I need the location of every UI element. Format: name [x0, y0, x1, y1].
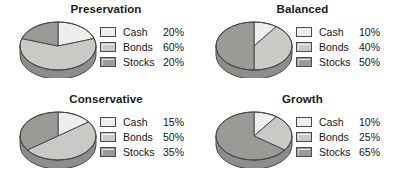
legend-swatch-bonds [296, 42, 312, 52]
legend-label: Bonds [123, 131, 163, 143]
legend-value: 10% [359, 116, 380, 128]
pie-svg [18, 110, 98, 168]
legend-label: Bonds [319, 131, 359, 143]
legend-swatch-stocks [100, 57, 116, 67]
legend-row: Bonds40% [296, 39, 388, 54]
legend-value: 20% [163, 56, 184, 68]
legend-value: 25% [359, 131, 380, 143]
legend-row: Stocks20% [100, 54, 192, 69]
legend-value: 20% [163, 26, 184, 38]
chart-panel-preservation: Preservation Cash20%Bonds60%Stocks20% [0, 0, 196, 90]
legend-row: Stocks65% [296, 144, 388, 159]
chart-title: Preservation [8, 3, 204, 15]
legend-value: 15% [163, 116, 184, 128]
legend-row: Cash15% [100, 114, 192, 129]
chart-legend: Cash10%Bonds40%Stocks50% [296, 24, 388, 69]
legend-label: Stocks [319, 56, 359, 68]
legend-label: Cash [319, 116, 359, 128]
legend-swatch-cash [296, 27, 312, 37]
legend-label: Cash [123, 116, 163, 128]
legend-value: 65% [359, 146, 380, 158]
legend-label: Cash [319, 26, 359, 38]
legend-row: Bonds50% [100, 129, 192, 144]
pie-chart-grid: Preservation Cash20%Bonds60%Stocks20% Ba… [0, 0, 393, 181]
chart-title: Growth [204, 93, 393, 105]
legend-value: 50% [359, 56, 380, 68]
pie-svg [18, 20, 98, 78]
legend-row: Stocks35% [100, 144, 192, 159]
pie-chart-conservative [18, 110, 98, 168]
pie-svg [214, 20, 294, 78]
legend-swatch-bonds [100, 42, 116, 52]
legend-row: Cash10% [296, 24, 388, 39]
legend-row: Bonds60% [100, 39, 192, 54]
pie-chart-preservation [18, 20, 98, 78]
legend-swatch-bonds [100, 132, 116, 142]
legend-row: Stocks50% [296, 54, 388, 69]
legend-value: 50% [163, 131, 184, 143]
legend-row: Cash20% [100, 24, 192, 39]
legend-swatch-cash [296, 117, 312, 127]
legend-row: Bonds25% [296, 129, 388, 144]
legend-swatch-stocks [296, 147, 312, 157]
legend-row: Cash10% [296, 114, 388, 129]
legend-swatch-stocks [296, 57, 312, 67]
chart-title: Balanced [204, 3, 393, 15]
legend-value: 60% [163, 41, 184, 53]
chart-panel-growth: Growth Cash10%Bonds25%Stocks65% [196, 90, 393, 181]
legend-label: Bonds [319, 41, 359, 53]
legend-swatch-bonds [296, 132, 312, 142]
legend-label: Stocks [319, 146, 359, 158]
legend-label: Cash [123, 26, 163, 38]
pie-chart-balanced [214, 20, 294, 78]
chart-legend: Cash20%Bonds60%Stocks20% [100, 24, 192, 69]
pie-svg [214, 110, 294, 168]
legend-label: Bonds [123, 41, 163, 53]
legend-value: 40% [359, 41, 380, 53]
chart-panel-conservative: Conservative Cash15%Bonds50%Stocks35% [0, 90, 196, 181]
chart-panel-balanced: Balanced Cash10%Bonds40%Stocks50% [196, 0, 393, 90]
chart-legend: Cash15%Bonds50%Stocks35% [100, 114, 192, 159]
legend-swatch-cash [100, 27, 116, 37]
legend-value: 35% [163, 146, 184, 158]
legend-swatch-stocks [100, 147, 116, 157]
legend-value: 10% [359, 26, 380, 38]
legend-label: Stocks [123, 56, 163, 68]
pie-chart-growth [214, 110, 294, 168]
legend-label: Stocks [123, 146, 163, 158]
chart-title: Conservative [8, 93, 204, 105]
legend-swatch-cash [100, 117, 116, 127]
chart-legend: Cash10%Bonds25%Stocks65% [296, 114, 388, 159]
